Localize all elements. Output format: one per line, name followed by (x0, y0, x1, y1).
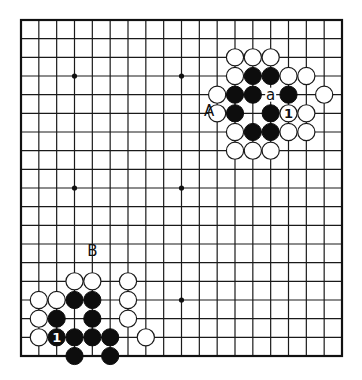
black-stone (244, 67, 261, 84)
white-stone-disc (226, 123, 243, 140)
white-stone (137, 329, 154, 346)
go-board: 11 aAB (0, 0, 362, 380)
black-stone-disc (102, 329, 119, 346)
white-stone-disc (30, 310, 47, 327)
black-stone-disc (66, 329, 83, 346)
black-stone-disc (244, 86, 261, 103)
white-stone (298, 105, 315, 122)
position-label-b: B (87, 242, 97, 260)
white-stone (262, 142, 279, 159)
white-stone (30, 291, 47, 308)
white-stone-disc (48, 291, 65, 308)
white-stone-disc (226, 49, 243, 66)
white-stone-disc (316, 86, 333, 103)
white-stone-disc (262, 142, 279, 159)
white-stone (244, 49, 261, 66)
black-stone (226, 105, 243, 122)
black-stone-disc (226, 105, 243, 122)
star-point (179, 297, 184, 302)
move-number: 1 (52, 330, 61, 345)
black-stone (84, 329, 101, 346)
black-stone (280, 86, 297, 103)
white-stone (30, 310, 47, 327)
go-board-diagram: 11 aAB (0, 0, 362, 380)
white-stone (298, 123, 315, 140)
black-stone-disc (226, 86, 243, 103)
black-stone-disc (84, 291, 101, 308)
star-point (72, 73, 77, 78)
black-stone (48, 310, 65, 327)
black-stone (84, 310, 101, 327)
black-stone: 1 (48, 329, 65, 346)
white-stone-disc (244, 49, 261, 66)
white-stone-disc (298, 105, 315, 122)
white-stone-disc (298, 123, 315, 140)
white-stone (316, 86, 333, 103)
point-label-a: a (266, 86, 275, 104)
white-stone-disc (280, 123, 297, 140)
black-stone (84, 291, 101, 308)
white-stone (48, 291, 65, 308)
white-stone (84, 273, 101, 290)
black-stone-disc (84, 310, 101, 327)
black-stone-disc (262, 105, 279, 122)
white-stone-disc (119, 291, 136, 308)
black-stone (244, 86, 261, 103)
white-stone (226, 142, 243, 159)
black-stone (66, 329, 83, 346)
black-stone-disc (280, 86, 297, 103)
black-stone (262, 105, 279, 122)
black-stone-disc (48, 310, 65, 327)
star-point (179, 185, 184, 190)
black-stone (102, 347, 119, 364)
white-stone (280, 123, 297, 140)
white-stone-disc (30, 329, 47, 346)
white-stone (226, 67, 243, 84)
white-stone-disc (280, 67, 297, 84)
white-stone (119, 291, 136, 308)
white-stone-disc (119, 273, 136, 290)
white-stone (119, 310, 136, 327)
white-stone-disc (66, 273, 83, 290)
white-stone: 1 (280, 105, 297, 122)
white-stone (298, 67, 315, 84)
white-stone-disc (262, 49, 279, 66)
white-stone-disc (298, 67, 315, 84)
white-stone (66, 273, 83, 290)
white-stone-disc (119, 310, 136, 327)
star-point (72, 185, 77, 190)
white-stone-disc (226, 67, 243, 84)
black-stone-disc (244, 123, 261, 140)
black-stone (262, 67, 279, 84)
position-label-a: A (204, 102, 215, 120)
black-stone-disc (102, 347, 119, 364)
white-stone (280, 67, 297, 84)
white-stone (226, 49, 243, 66)
black-stone (244, 123, 261, 140)
black-stone-disc (66, 347, 83, 364)
black-stone-disc (262, 67, 279, 84)
white-stone-disc (30, 291, 47, 308)
white-stone (226, 123, 243, 140)
white-stone-disc (226, 142, 243, 159)
white-stone-disc (244, 142, 261, 159)
star-point (179, 73, 184, 78)
white-stone (244, 142, 261, 159)
white-stone-disc (137, 329, 154, 346)
black-stone-disc (66, 291, 83, 308)
black-stone (66, 291, 83, 308)
black-stone-disc (244, 67, 261, 84)
black-stone (102, 329, 119, 346)
black-stone (226, 86, 243, 103)
white-stone (119, 273, 136, 290)
black-stone-disc (84, 329, 101, 346)
white-stone-disc (84, 273, 101, 290)
move-number: 1 (284, 106, 293, 121)
black-stone (66, 347, 83, 364)
white-stone (209, 86, 226, 103)
black-stone (262, 123, 279, 140)
white-stone-disc (209, 86, 226, 103)
black-stone-disc (262, 123, 279, 140)
white-stone (30, 329, 47, 346)
white-stone (262, 49, 279, 66)
